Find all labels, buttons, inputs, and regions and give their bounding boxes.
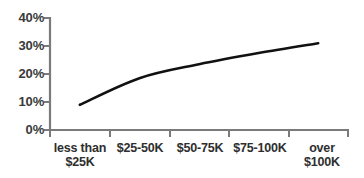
x-tick-label-line-2: $25K — [44, 155, 116, 169]
x-tick-label-line-1: $75-100K — [223, 141, 297, 155]
x-tick-label-25-50k: $25-50K — [106, 141, 174, 155]
x-tick-label-line-1: over — [291, 141, 353, 155]
line-chart: 40% 30% 20% 10% 0% less than $25K $25-50… — [0, 0, 364, 178]
y-axis-label-group-30: 30% — [0, 39, 44, 52]
y-tick-label-30: 30% — [6, 39, 44, 52]
y-axis-label-group-0: 0% — [0, 123, 44, 136]
data-series-line — [80, 43, 318, 105]
axis-lines — [49, 17, 349, 130]
y-tick-label-20: 20% — [6, 67, 44, 80]
x-tick-label-line-2: $100K — [291, 155, 353, 169]
y-axis-label-group-20: 20% — [0, 67, 44, 80]
x-tick-label-line-1: $25-50K — [106, 141, 174, 155]
y-tick-label-40: 40% — [6, 11, 44, 24]
y-tick-label-0: 0% — [6, 123, 44, 136]
x-tick-label-over-100k: over $100K — [291, 141, 353, 169]
x-tick-label-75-100k: $75-100K — [223, 141, 297, 155]
y-tick-label-10: 10% — [6, 95, 44, 108]
y-axis-label-group-40: 40% — [0, 11, 44, 24]
y-axis-label-group-10: 10% — [0, 95, 44, 108]
